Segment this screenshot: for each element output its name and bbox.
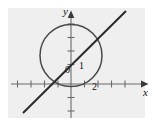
math-figure: y x 0 1 2 [0, 0, 154, 128]
x-tick-label-2: 2 [92, 82, 97, 92]
x-tick-label-1: 1 [79, 61, 84, 71]
coordinate-plot [0, 0, 154, 128]
x-axis-label: x [143, 87, 148, 98]
origin-label: 0 [65, 65, 70, 75]
y-axis-label: y [63, 6, 68, 17]
